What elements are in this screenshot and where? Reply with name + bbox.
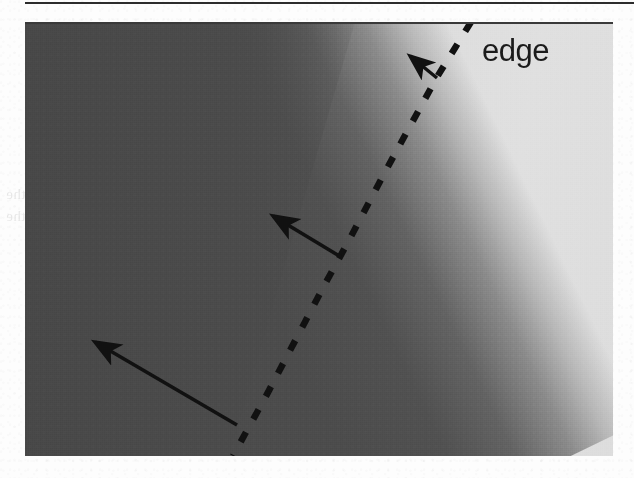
scanned-page: of the in the illustrates the most often… (0, 0, 634, 478)
gradient-arrow-top (410, 56, 437, 78)
dashed-edge-line (233, 22, 471, 456)
gradient-arrow-bottom (95, 342, 237, 425)
edge-figure-image (25, 22, 613, 456)
edge-label: edge (482, 35, 549, 66)
figure-top-border (25, 22, 613, 24)
edge-annotation-overlay (25, 22, 613, 456)
gradient-arrow-middle (273, 216, 341, 257)
page-top-rule (25, 2, 634, 4)
